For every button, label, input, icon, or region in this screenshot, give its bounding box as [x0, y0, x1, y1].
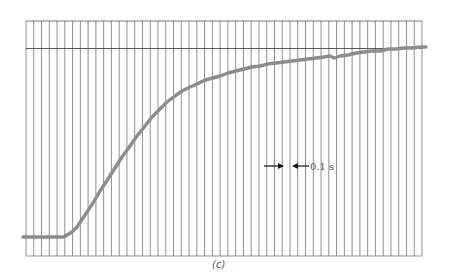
response-curve [23, 47, 426, 237]
right-arrowhead-icon [278, 163, 284, 169]
vertical-grid-lines [26, 21, 422, 256]
strip-chart: 0.1 s [0, 0, 450, 280]
time-scale-label: 0.1 s [310, 161, 334, 172]
left-arrowhead-icon [292, 163, 298, 169]
figure-caption: (c) [212, 259, 225, 270]
